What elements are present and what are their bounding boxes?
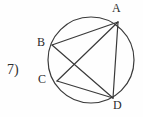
point-label-b: B <box>37 36 45 48</box>
chord-c-a <box>57 22 118 81</box>
chord-b-d <box>52 45 113 98</box>
point-label-a: A <box>112 2 121 14</box>
point-label-c: C <box>38 73 46 85</box>
geometry-figure: 7) A B C D <box>0 0 143 117</box>
chord-c-d <box>57 81 113 98</box>
chord-b-a <box>52 22 118 45</box>
point-label-d: D <box>113 99 122 111</box>
chord-a-d <box>113 22 118 98</box>
circle-outline <box>48 17 134 103</box>
problem-number: 7) <box>7 63 19 77</box>
